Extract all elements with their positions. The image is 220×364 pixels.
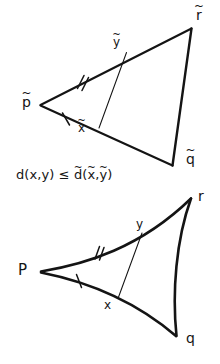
caption-rhs-y-wrap: ~ y	[100, 168, 108, 181]
tilde-accent-r: ~	[194, 1, 204, 13]
label-x-tilde: ~ x	[78, 122, 85, 134]
edge-p-r	[41, 199, 191, 272]
label-y-tilde: ~ y	[113, 36, 120, 48]
tilde-accent-rhs-y: ~	[99, 162, 108, 172]
caption-relation: ≤	[59, 167, 70, 182]
caption-rhs-fn-wrap: ~ d	[74, 168, 82, 181]
label-q: q	[186, 331, 195, 345]
label-r-tilde: ~ r	[196, 8, 202, 22]
caption-rhs-x-wrap: ~ x	[88, 168, 96, 181]
distance-inequality-caption: d(x,y) ≤ ~ d ( ~ x , ~ y )	[16, 168, 113, 181]
tilde-accent-d: ~	[74, 162, 83, 172]
label-p-tilde: ~ p	[22, 95, 31, 109]
tilde-accent-y: ~	[112, 30, 121, 40]
tilde-accent-x: ~	[77, 116, 86, 126]
label-p: P	[18, 263, 27, 278]
tilde-accent-q: ~	[185, 145, 195, 157]
label-y: y	[136, 218, 143, 230]
lower-geodesic-triangle	[41, 199, 191, 337]
edge-ptilde-qtilde	[41, 106, 173, 166]
edge-r-q	[175, 199, 191, 337]
upper-comparison-triangle	[41, 29, 192, 166]
tilde-accent-p: ~	[21, 88, 31, 100]
label-q-tilde: ~ q	[186, 152, 195, 166]
caption-rhs-close: )	[107, 167, 112, 182]
label-r: r	[198, 189, 204, 203]
caption-lhs-close: )	[49, 167, 54, 182]
tilde-accent-rhs-x: ~	[87, 162, 96, 172]
label-x: x	[104, 299, 111, 311]
chord-xtilde-ytilde	[99, 53, 127, 129]
